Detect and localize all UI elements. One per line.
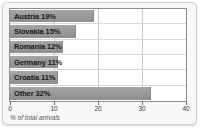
bar-row: Germany 11% <box>10 55 186 70</box>
bar-label: Croatia 11% <box>14 70 55 84</box>
plot-area: Austria 19%Slovakia 15%Romania 12%German… <box>9 8 187 102</box>
tick-label-20: 20 <box>94 105 101 112</box>
bar-label: Other 32% <box>14 86 50 101</box>
bar-row: Slovakia 15% <box>10 24 186 39</box>
bar-row: Croatia 11% <box>10 70 186 85</box>
bar-row: Other 32% <box>10 86 186 101</box>
bar-label: Slovakia 15% <box>14 24 60 38</box>
bar-label: Austria 19% <box>14 9 56 23</box>
tick-label-10: 10 <box>50 105 57 112</box>
chart-card: Austria 19%Slovakia 15%Romania 12%German… <box>2 2 197 125</box>
x-axis: 010203040 <box>9 102 187 114</box>
tick-label-40: 40 <box>182 105 189 112</box>
bar-label: Romania 12% <box>14 40 62 54</box>
bar-label: Germany 11% <box>14 55 62 69</box>
bar-rows: Austria 19%Slovakia 15%Romania 12%German… <box>10 9 186 101</box>
bar-row: Romania 12% <box>10 40 186 55</box>
x-axis-label: % of total arrivals <box>10 114 60 121</box>
bar-row: Austria 19% <box>10 9 186 24</box>
tick-label-0: 0 <box>8 105 12 112</box>
tick-label-30: 30 <box>138 105 145 112</box>
